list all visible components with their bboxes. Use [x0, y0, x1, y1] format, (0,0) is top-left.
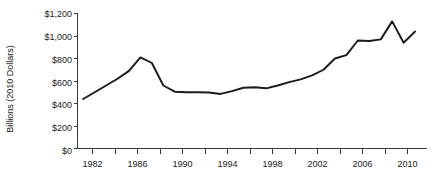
- x-axis-tick-labels: 1982 1986 1990 1994 1998 2002 2006 2010: [82, 159, 417, 169]
- x-tick-label-1982: 1982: [82, 159, 102, 169]
- x-tick-label-1986: 1986: [127, 159, 147, 169]
- y-axis: [74, 14, 78, 149]
- data-line-spending: [83, 21, 415, 99]
- y-axis-title: Billions (2010 Dollars): [5, 45, 15, 133]
- y-tick-label-1200: $1,200: [44, 9, 72, 19]
- y-tick-label-0: $0: [62, 146, 72, 156]
- data-series-group: [83, 21, 415, 99]
- x-tick-label-1998: 1998: [262, 159, 282, 169]
- y-tick-label-200: $200: [52, 123, 72, 133]
- x-tick-label-1990: 1990: [172, 159, 192, 169]
- y-tick-label-400: $400: [52, 100, 72, 110]
- chart-canvas: Billions (2010 Dollars) $1,200 $1,000 $8…: [0, 0, 440, 178]
- y-axis-tick-labels: $1,200 $1,000 $800 $600 $400 $200 $0: [44, 9, 72, 156]
- x-tick-label-2006: 2006: [352, 159, 372, 169]
- y-tick-label-800: $800: [52, 55, 72, 65]
- x-tick-label-1994: 1994: [217, 159, 237, 169]
- x-tick-label-2010: 2010: [397, 159, 417, 169]
- y-tick-label-600: $600: [52, 78, 72, 88]
- line-chart: Billions (2010 Dollars) $1,200 $1,000 $8…: [0, 0, 440, 178]
- x-axis: [78, 149, 427, 154]
- y-axis-title-group: Billions (2010 Dollars): [5, 45, 15, 133]
- x-tick-label-2002: 2002: [307, 159, 327, 169]
- y-tick-label-1000: $1,000: [44, 32, 72, 42]
